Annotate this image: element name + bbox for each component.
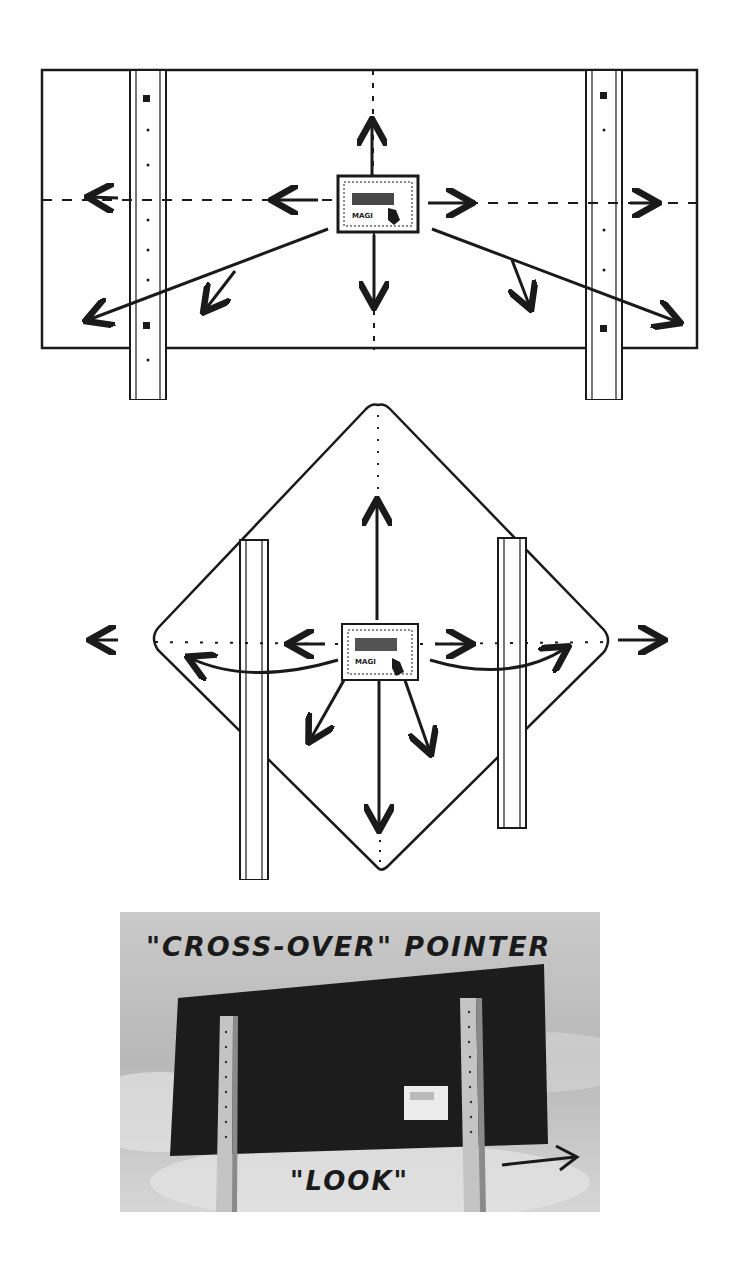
svg-text:MAGI: MAGI bbox=[355, 658, 376, 666]
caption-bottom: "LOOK" bbox=[290, 1166, 409, 1196]
decal: MAGI bbox=[338, 176, 418, 232]
diamond-sign-drawing: MAGI bbox=[0, 400, 738, 880]
svg-text:MAGI: MAGI bbox=[352, 212, 373, 220]
sign-photo-image: "CROSS-OVER" POINTER "LOOK" bbox=[120, 912, 600, 1212]
decal: MAGI bbox=[342, 624, 418, 680]
caption-top: "CROSS-OVER" POINTER bbox=[146, 931, 551, 962]
rectangular-sign-drawing: MAGI bbox=[0, 0, 738, 400]
photo-decal bbox=[404, 1086, 448, 1120]
sign-photo: "CROSS-OVER" POINTER "LOOK" bbox=[120, 912, 600, 1212]
rectangular-sign-diagram: MAGI bbox=[0, 0, 738, 400]
diamond-sign-diagram: MAGI bbox=[0, 400, 738, 880]
